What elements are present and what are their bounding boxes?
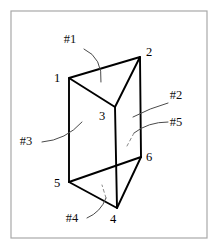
vertex-label-6: 6 [146,150,152,164]
vertex-label-3: 3 [99,109,105,123]
callout-label-1: #1 [64,32,77,46]
edge-2-6 [140,57,141,157]
figure-container: 1 2 3 4 5 6 #1 #2 #3 #4 #5 [0,0,218,249]
callout-label-3: #3 [20,134,33,148]
prism-diagram: 1 2 3 4 5 6 #1 #2 #3 #4 #5 [0,0,218,249]
vertex-label-2: 2 [146,45,152,59]
callout-label-2: #2 [170,88,183,102]
vertex-label-1: 1 [54,71,60,85]
callout-label-5: #5 [170,115,183,129]
callout-label-4: #4 [66,211,79,225]
vertex-label-4: 4 [110,212,117,226]
vertex-label-5: 5 [54,176,60,190]
